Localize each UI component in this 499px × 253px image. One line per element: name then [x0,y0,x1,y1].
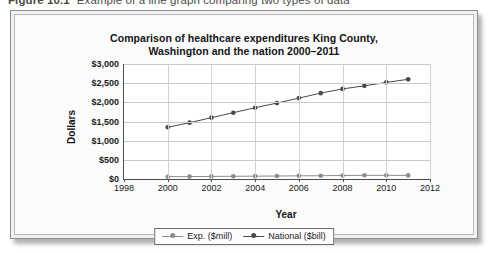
y-gridline [124,122,430,123]
x-axis-tick-label: 2006 [289,183,309,193]
y-gridline [124,64,430,65]
y-axis-tick-label: $2,000 [91,97,119,107]
figure-panel: Comparison of healthcare expenditures Ki… [10,10,478,239]
x-gridline [386,64,387,179]
y-axis-tick-label: $1,500 [91,117,119,127]
series-data-point [231,174,236,179]
plot-area: $0$500$1,000$1,500$2,000$2,500$3,0001998… [123,64,430,180]
legend-marker-icon [243,232,264,241]
series-data-point [231,110,236,115]
y-gridline [124,141,430,142]
series-data-point [362,173,367,178]
legend-entry: National ($bill) [243,231,326,241]
series-data-point [318,91,323,96]
y-gridline [124,83,430,84]
legend-label: Exp. ($mill) [187,231,232,241]
y-axis-tick-label: $3,000 [91,59,119,69]
x-axis-tick-label: 1998 [114,183,134,193]
x-axis-tick-label: 2008 [333,183,353,193]
legend-label: National ($bill) [268,231,326,241]
x-gridline [168,64,169,179]
legend-entry: Exp. ($mill) [162,231,232,241]
y-axis-tick-label: $500 [99,155,119,165]
y-gridline [124,102,430,103]
figure-caption-label: Figure 10.1 [8,0,70,6]
y-axis-tick-label: $2,500 [91,78,119,88]
legend-marker-icon [162,232,183,241]
x-axis-tick-label: 2010 [376,183,396,193]
y-gridline [124,160,430,161]
x-axis-tick-mark [255,179,256,182]
x-gridline [343,64,344,179]
series-data-point [362,84,367,89]
chart-title: Comparison of healthcare expenditures Ki… [15,32,473,58]
chart-title-line-2: Washington and the nation 2000–2011 [15,45,473,58]
series-line [168,175,408,176]
x-axis-tick-label: 2004 [245,183,265,193]
x-axis-tick-mark [124,179,125,182]
series-data-point [187,174,192,179]
x-axis-tick-mark [299,179,300,182]
series-data-point [275,174,280,179]
x-axis-tick-label: 2012 [420,183,440,193]
series-data-point [406,77,411,82]
series-data-point [406,173,411,178]
x-gridline [430,64,431,179]
x-axis-tick-label: 2002 [201,183,221,193]
x-gridline [299,64,300,179]
chart-legend: Exp. ($mill)National ($bill) [154,228,334,245]
figure-caption: Figure 10.1Example of a line graph compa… [8,0,478,10]
x-axis-tick-label: 2000 [158,183,178,193]
x-axis-tick-mark [211,179,212,182]
x-axis-tick-mark [430,179,431,182]
figure-panel-inner: Comparison of healthcare expenditures Ki… [14,14,474,235]
figure-caption-text: Example of a line graph comparing two ty… [77,0,350,6]
x-axis-tick-mark [386,179,387,182]
x-axis-tick-mark [168,179,169,182]
series-data-point [318,173,323,178]
x-axis-title: Year [133,209,439,220]
x-axis-tick-mark [343,179,344,182]
y-axis-tick-label: $1,000 [91,136,119,146]
x-gridline [211,64,212,179]
y-axis-title: Dollars [66,110,77,144]
x-gridline [255,64,256,179]
chart-title-line-1: Comparison of healthcare expenditures Ki… [15,32,473,45]
